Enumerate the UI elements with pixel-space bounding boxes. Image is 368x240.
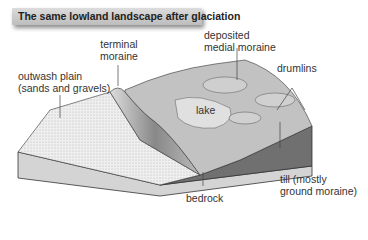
label-lake: lake [196,104,215,116]
drumlin [255,93,295,107]
label-terminal-moraine: terminal moraine [100,38,138,62]
label-line: medial moraine [204,41,276,53]
label-line: outwash plain [18,70,110,82]
label-line: till (mostly [280,173,357,185]
label-line: moraine [100,50,138,62]
label-line: (sands and gravels) [18,82,110,94]
medial-moraine [203,77,247,93]
drumlin [229,112,261,124]
label-medial-moraine: deposited medial moraine [204,29,276,53]
label-drumlins: drumlins [277,62,317,74]
label-line: deposited [204,29,276,41]
label-line: ground moraine) [280,185,357,197]
label-till: till (mostly ground moraine) [280,173,357,197]
label-outwash-plain: outwash plain (sands and gravels) [18,70,110,94]
label-bedrock: bedrock [186,192,223,204]
label-line: terminal [100,38,138,50]
